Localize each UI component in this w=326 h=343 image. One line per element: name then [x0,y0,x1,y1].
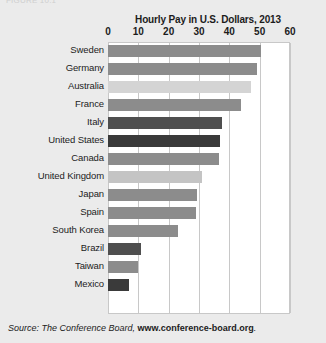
bar-row: France [0,96,326,114]
x-axis-tick-labels: 0102030405060 [0,26,326,39]
category-label-france: France [0,98,104,109]
bar-taiwan [108,261,138,273]
bar-germany [108,63,257,75]
bar-rows: SwedenGermanyAustraliaFranceItalyUnited … [0,42,326,314]
bar-mexico [108,279,129,291]
bar-row: Mexico [0,276,326,294]
bar-japan [108,189,197,201]
bar-row: United States [0,132,326,150]
bar-row: Canada [0,150,326,168]
bar-row: Spain [0,204,326,222]
bar-brazil [108,243,141,255]
bar-row: Taiwan [0,258,326,276]
source-prefix: Source: The Conference Board, [8,323,138,333]
x-tick-label-0: 0 [105,26,111,37]
bar-united-states [108,135,220,147]
category-label-canada: Canada [0,152,104,163]
cropped-caption-text: FIGURE 10.1 [6,0,326,5]
category-label-united-kingdom: United Kingdom [0,170,104,181]
category-label-japan: Japan [0,188,104,199]
bar-sweden [108,45,261,57]
bar-row: South Korea [0,222,326,240]
category-label-spain: Spain [0,206,104,217]
bar-row: Australia [0,78,326,96]
x-tick-label-40: 40 [224,26,235,37]
x-tick-label-60: 60 [284,26,295,37]
category-label-germany: Germany [0,62,104,73]
chart-title: Hourly Pay in U.S. Dollars, 2013 [108,14,308,25]
figure-container: FIGURE 10.1 Hourly Pay in U.S. Dollars, … [0,0,326,343]
bar-row: Sweden [0,42,326,60]
category-label-united-states: United States [0,134,104,145]
category-label-sweden: Sweden [0,44,104,55]
bar-canada [108,153,219,165]
category-label-italy: Italy [0,116,104,127]
category-label-brazil: Brazil [0,242,104,253]
x-tick-label-10: 10 [133,26,144,37]
source-suffix: . [254,323,257,333]
category-label-mexico: Mexico [0,278,104,289]
bar-row: Germany [0,60,326,78]
bar-france [108,99,241,111]
bar-united-kingdom [108,171,202,183]
bar-row: Italy [0,114,326,132]
bar-row: United Kingdom [0,168,326,186]
bar-spain [108,207,196,219]
bar-italy [108,117,222,129]
source-link: www.conference-board.org [138,323,254,333]
category-label-australia: Australia [0,80,104,91]
x-tick-label-30: 30 [193,26,204,37]
x-tick-label-50: 50 [254,26,265,37]
bar-row: Japan [0,186,326,204]
bar-row: Brazil [0,240,326,258]
category-label-taiwan: Taiwan [0,260,104,271]
bar-australia [108,81,251,93]
source-note: Source: The Conference Board, www.confer… [8,323,256,333]
cropped-figure-caption: FIGURE 10.1 [0,0,326,9]
category-label-south-korea: South Korea [0,224,104,235]
bar-south-korea [108,225,178,237]
x-tick-label-20: 20 [163,26,174,37]
